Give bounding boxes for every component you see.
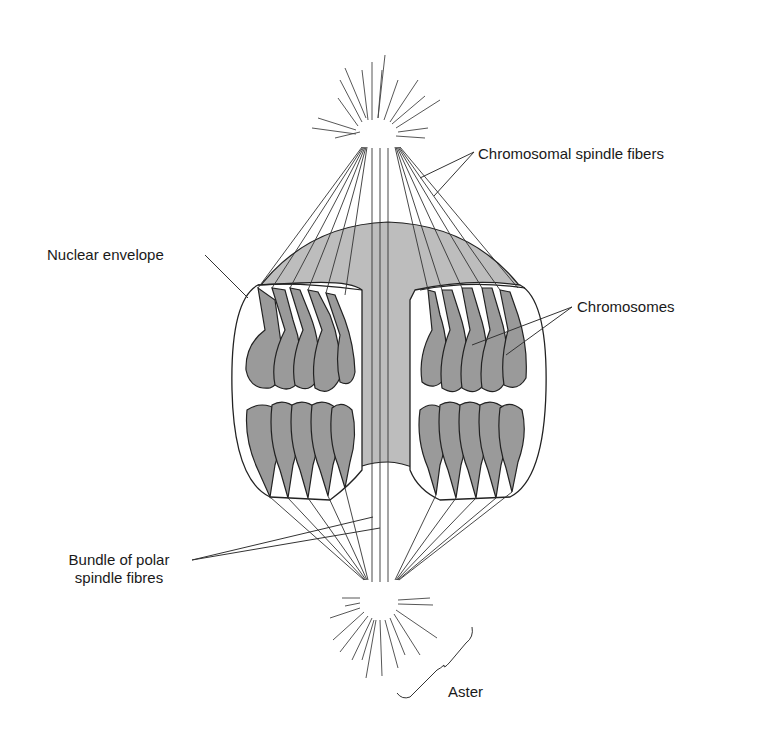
label-aster: Aster	[448, 683, 483, 701]
mitotic-spindle-diagram	[0, 0, 779, 736]
lower-chromosomal-fibres	[270, 488, 512, 580]
label-bundle-polar-line2: spindle fibres	[48, 569, 190, 587]
label-nuclear-envelope: Nuclear envelope	[47, 246, 164, 264]
label-chromosomal-spindle-fibers: Chromosomal spindle fibers	[478, 145, 664, 163]
right-upper-chromosomes	[421, 288, 526, 392]
left-upper-chromosomes	[246, 288, 355, 391]
right-nucleus	[410, 282, 546, 500]
upper-aster	[312, 55, 440, 138]
label-chromosomes: Chromosomes	[577, 298, 675, 316]
label-bundle-polar-line1: Bundle of polar	[48, 551, 190, 569]
left-nucleus	[232, 282, 362, 500]
lower-aster	[330, 598, 437, 678]
